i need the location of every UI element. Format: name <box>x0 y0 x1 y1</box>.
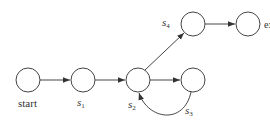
node-exit <box>236 12 260 36</box>
state-diagram: start s1 s2 s3 s4 exit <box>0 0 270 125</box>
label-s4: s4 <box>162 16 170 30</box>
node-s3 <box>181 68 205 92</box>
label-exit: exit <box>264 19 270 30</box>
edge-s3-s2-loop <box>139 92 191 115</box>
label-s1: s1 <box>77 96 85 110</box>
edge-s2-s4 <box>145 33 184 70</box>
node-start <box>16 68 40 92</box>
node-s1 <box>71 68 95 92</box>
label-s2: s2 <box>128 98 136 112</box>
node-s2 <box>126 68 150 92</box>
label-s3: s3 <box>185 104 193 118</box>
label-start: start <box>18 97 37 109</box>
node-s4 <box>181 12 205 36</box>
